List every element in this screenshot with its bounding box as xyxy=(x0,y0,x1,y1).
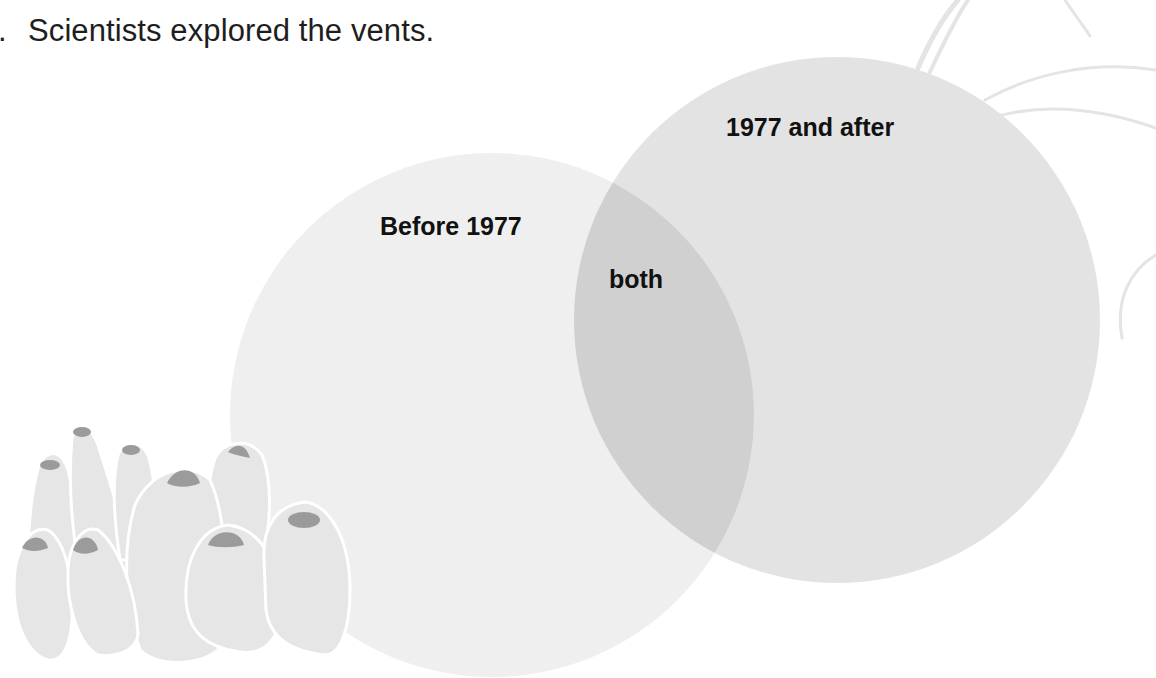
prompt-text: Scientists explored the vents. xyxy=(28,13,434,48)
venn-label-before-1977: Before 1977 xyxy=(380,212,522,241)
question-prompt: .Scientists explored the vents. xyxy=(0,13,434,49)
venn-label-both: both xyxy=(609,265,663,294)
venn-label-after-1977: 1977 and after xyxy=(726,113,894,142)
venn-diagram-illustration xyxy=(0,0,1156,678)
item-number: . xyxy=(0,13,28,49)
